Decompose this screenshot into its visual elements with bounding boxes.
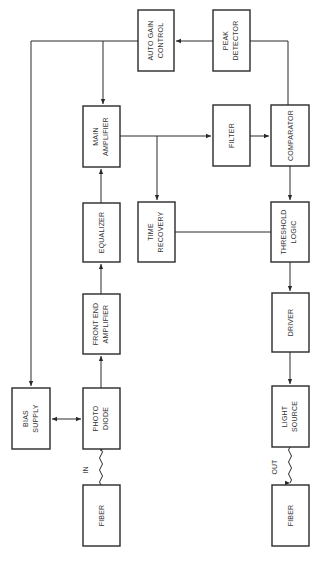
svg-text:TIME: TIME	[147, 223, 154, 241]
block-front-end-amplifier: FRONT END AMPLIFIER	[83, 294, 120, 354]
block-comparator: COMPARATOR	[271, 105, 309, 166]
block-time-recovery: TIME RECOVERY	[138, 202, 175, 262]
block-auto-gain-control: AUTO GAIN CONTROL	[138, 10, 174, 71]
svg-text:LIGHT: LIGHT	[281, 405, 288, 427]
svg-text:FIBER: FIBER	[98, 505, 105, 527]
svg-text:DRIVER: DRIVER	[287, 309, 294, 337]
block-peak-detector: PEAK DETECTOR	[213, 10, 250, 71]
block-fiber-out: FIBER	[272, 485, 309, 546]
block-main-amplifier: MAIN AMPLIFIER	[83, 106, 120, 167]
svg-text:AMPLIFIER: AMPLIFIER	[102, 305, 109, 344]
block-photodiode: PHOTO DIODE	[83, 388, 120, 449]
svg-text:AUTO GAIN: AUTO GAIN	[147, 20, 154, 60]
svg-text:COMPARATOR: COMPARATOR	[287, 110, 294, 161]
wavy-fiber-in	[100, 449, 103, 485]
svg-text:FRONT END: FRONT END	[92, 303, 99, 346]
svg-text:THRESHOLD: THRESHOLD	[280, 210, 287, 255]
svg-text:SOURCE: SOURCE	[291, 401, 298, 432]
wavy-fiber-out	[289, 447, 292, 483]
block-bias-supply: BIAS SUPPLY	[12, 388, 50, 449]
svg-text:RECOVERY: RECOVERY	[157, 211, 164, 252]
svg-text:MAIN: MAIN	[92, 127, 99, 145]
svg-text:AMPLIFIER: AMPLIFIER	[102, 117, 109, 156]
svg-text:DIODE: DIODE	[102, 407, 109, 430]
svg-text:BIAS: BIAS	[22, 410, 29, 427]
svg-text:SUPPLY: SUPPLY	[32, 404, 39, 432]
svg-text:FILTER: FILTER	[228, 123, 235, 148]
svg-text:EQUALIZER: EQUALIZER	[98, 212, 106, 253]
label-out: OUT	[271, 459, 278, 475]
svg-text:PHOTO: PHOTO	[92, 405, 99, 431]
block-light-source: LIGHT SOURCE	[272, 386, 309, 447]
block-equalizer: EQUALIZER	[83, 203, 120, 262]
connections	[31, 41, 292, 485]
svg-text:DETECTOR: DETECTOR	[232, 21, 239, 61]
svg-text:LOGIC: LOGIC	[290, 221, 297, 244]
block-filter: FILTER	[213, 105, 250, 166]
wire-comparator-to-peak	[250, 41, 288, 105]
block-fiber-in: FIBER	[83, 485, 120, 546]
svg-text:PEAK: PEAK	[222, 31, 229, 51]
svg-text:CONTROL: CONTROL	[157, 23, 164, 59]
block-driver: DRIVER	[272, 293, 309, 352]
block-threshold-logic: THRESHOLD LOGIC	[271, 202, 309, 262]
block-diagram: IN OUT AUTO GAIN CONTROL PEAK DETECTOR M…	[0, 0, 327, 563]
svg-text:FIBER: FIBER	[287, 505, 294, 527]
label-in: IN	[82, 467, 89, 474]
